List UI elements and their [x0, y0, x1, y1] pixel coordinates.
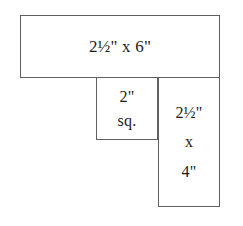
shape-right-rect-label-line-2: x: [185, 127, 193, 157]
shape-top-bar: 2½" x 6": [20, 15, 220, 78]
shape-right-rect-label-line-1: 2½": [175, 98, 202, 128]
shape-middle-square: 2" sq.: [96, 77, 158, 140]
shape-right-rect-label-line-3: 4": [182, 157, 197, 187]
shape-middle-square-label-line-1: 2": [120, 85, 135, 108]
diagram-canvas: 2½" x 6" 2½" x 4" 2" sq.: [0, 0, 243, 226]
shape-top-bar-label-line-1: 2½" x 6": [89, 37, 151, 57]
shape-right-rect: 2½" x 4": [158, 77, 220, 207]
shape-middle-square-label-line-2: sq.: [118, 109, 137, 132]
